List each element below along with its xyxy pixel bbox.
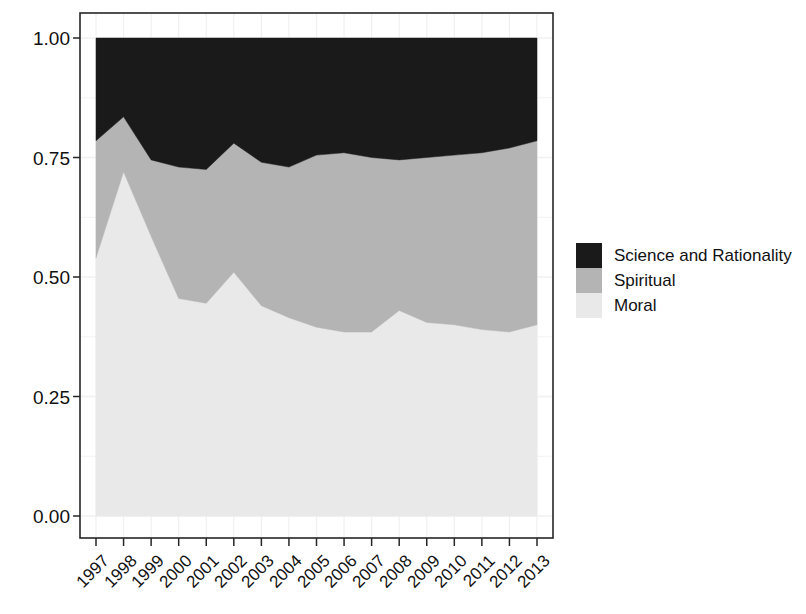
- legend-item[interactable]: Moral: [576, 293, 806, 318]
- legend-item-label: Spiritual: [614, 272, 675, 289]
- area-series-group: [96, 38, 537, 516]
- stacked-area-chart: 1.000.750.500.250.00 1997199819992000200…: [0, 0, 806, 614]
- y-axis: 1.000.750.500.250.00: [8, 0, 70, 614]
- y-tick-label: 0.00: [8, 507, 70, 526]
- legend-swatch-icon: [576, 243, 602, 268]
- y-tick-label: 0.75: [8, 148, 70, 167]
- y-tick-label: 1.00: [8, 29, 70, 48]
- legend-item-label: Science and Rationality: [614, 247, 792, 264]
- legend-swatch-icon: [576, 293, 602, 318]
- legend-item[interactable]: Science and Rationality: [576, 243, 806, 268]
- legend-item-label: Moral: [614, 297, 657, 314]
- area-series-science-and-rationality: [96, 38, 537, 169]
- y-tick-label: 0.50: [8, 268, 70, 287]
- legend: Science and RationalitySpiritualMoral: [576, 243, 806, 318]
- legend-item[interactable]: Spiritual: [576, 268, 806, 293]
- y-tick-label: 0.25: [8, 387, 70, 406]
- legend-swatch-icon: [576, 268, 602, 293]
